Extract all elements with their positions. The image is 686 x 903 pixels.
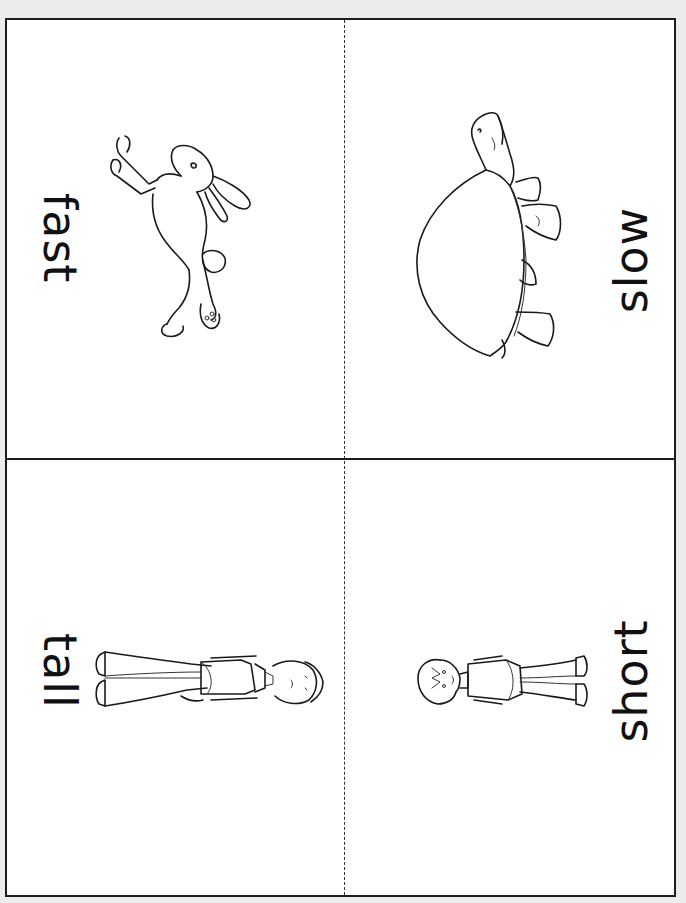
flashcard-sheet: fast — [5, 18, 676, 897]
card-short: short — [344, 458, 676, 895]
short-person-icon — [410, 648, 590, 722]
tortoise-icon — [406, 100, 576, 374]
card-word-short: short — [608, 616, 654, 746]
card-tall: tall — [7, 458, 344, 895]
tall-person-icon — [91, 648, 331, 724]
card-word-fast: fast — [37, 193, 83, 283]
card-slow: slow — [344, 20, 676, 458]
card-word-tall: tall — [37, 626, 83, 716]
rabbit-icon — [97, 122, 267, 346]
card-word-slow: slow — [608, 205, 654, 315]
card-fast: fast — [7, 20, 344, 458]
